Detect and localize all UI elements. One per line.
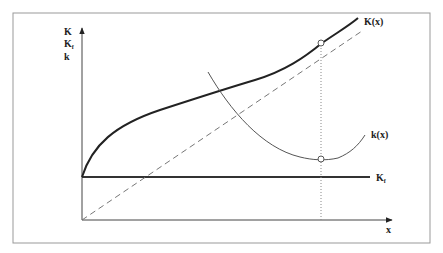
K-curve-label: K(x) <box>364 16 383 28</box>
y-axis-label-K: K <box>64 26 72 37</box>
cost-curves-diagram: K Kf k x Kf K(x) k(x) <box>0 0 443 253</box>
figure-frame <box>13 13 430 243</box>
Kf-label: Kf <box>376 172 387 184</box>
y-axis-label-k: k <box>64 51 70 62</box>
y-axis-label-Kf: Kf <box>64 38 75 50</box>
tangent-point-marker <box>318 40 324 46</box>
K-curve <box>82 18 358 177</box>
x-axis-label: x <box>386 224 391 235</box>
k-minimum-marker <box>318 156 324 162</box>
k-curve <box>208 72 365 160</box>
k-curve-label: k(x) <box>371 129 388 141</box>
